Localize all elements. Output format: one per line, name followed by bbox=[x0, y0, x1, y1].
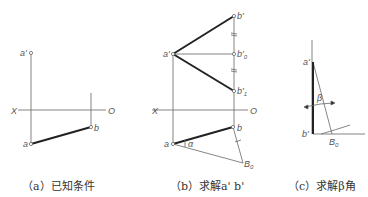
label-B0: B0 bbox=[244, 159, 254, 170]
label-a-prime: a' bbox=[20, 48, 27, 58]
caption-c: （c）求解β角 bbox=[288, 177, 356, 193]
panel-a bbox=[18, 51, 106, 145]
panel-c bbox=[304, 40, 365, 134]
label-b1-prime: b'1 bbox=[237, 86, 247, 97]
label-x: X bbox=[10, 106, 18, 116]
label-o: O bbox=[108, 106, 115, 116]
label-a: a bbox=[23, 139, 28, 149]
label-a-prime-c: a' bbox=[303, 57, 310, 67]
caption-a: （a）已知条件 bbox=[22, 177, 95, 193]
caption-b: （b）求解a' b' bbox=[170, 177, 244, 193]
label-a-b: a bbox=[164, 139, 169, 149]
label-b-prime-c: b' bbox=[302, 129, 309, 139]
label-alpha: α bbox=[188, 139, 194, 149]
label-beta: β bbox=[316, 93, 322, 103]
label-a-prime-b: a' bbox=[163, 49, 170, 59]
label-b0-prime: b'0 bbox=[237, 49, 248, 60]
label-b-prime: b' bbox=[237, 11, 244, 21]
projection-diagram: a' X O b a b' a' b'0 b'1 X O b a α B0 bbox=[0, 0, 368, 197]
label-B0-c: B0 bbox=[329, 137, 339, 148]
label-b: b bbox=[94, 123, 99, 133]
label-x-b: X bbox=[151, 106, 159, 116]
label-b-b: b bbox=[237, 123, 242, 133]
label-o-b: O bbox=[250, 106, 257, 116]
